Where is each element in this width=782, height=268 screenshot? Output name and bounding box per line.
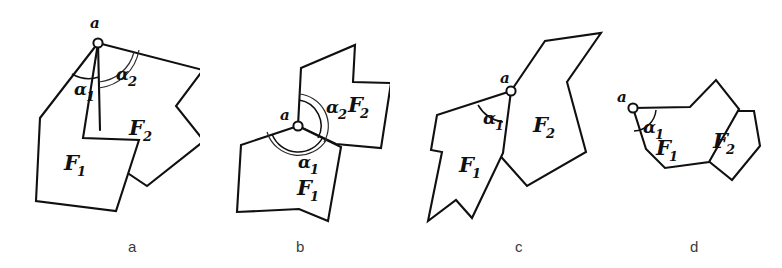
vertex-marker-c — [506, 86, 515, 95]
figure-panel-a: a α 1 α 2 F 1 F 2 — [0, 0, 200, 268]
region-subscript-f2-c: 2 — [545, 126, 555, 141]
region-subscript-f1-b: 1 — [310, 189, 319, 204]
figure-panel-c: a α 1 F 1 F 2 — [390, 0, 605, 268]
region-subscript-f1-c: 1 — [472, 166, 481, 181]
polygon-f2-c — [495, 33, 601, 186]
figure-plate: a α 1 α 2 F 1 F 2 a α — [0, 0, 782, 268]
region-subscript-f1-a: 1 — [77, 164, 86, 179]
panel-a-drawing: a α 1 α 2 F 1 F 2 — [0, 0, 200, 268]
region-subscript-f2-a: 2 — [142, 129, 152, 144]
caption-d: d — [690, 238, 698, 255]
vertex-label-a: a — [90, 14, 100, 32]
vertex-marker-a — [93, 38, 102, 47]
angle-subscript-alpha1-c: 1 — [495, 118, 504, 133]
panel-c-drawing: a α 1 F 1 F 2 — [390, 0, 605, 268]
region-subscript-f1-d: 1 — [669, 149, 678, 164]
vertex-label-c: a — [500, 69, 510, 87]
caption-a: a — [128, 238, 136, 255]
vertex-label-b: a — [280, 106, 290, 124]
region-subscript-f2-b: 2 — [359, 106, 369, 121]
angle-subscript-alpha1-a: 1 — [86, 89, 95, 104]
angle-subscript-alpha2-b: 2 — [337, 107, 347, 122]
figure-panel-d: a α 1 F 1 F 2 — [605, 0, 782, 268]
figure-panel-b: a α 1 α 2 F 1 F 2 — [200, 0, 390, 268]
region-subscript-f2-d: 2 — [725, 142, 735, 157]
vertex-label-d: a — [617, 88, 627, 106]
caption-b: b — [296, 238, 304, 255]
vertex-marker-b — [293, 121, 302, 130]
panel-b-drawing: a α 1 α 2 F 1 F 2 — [200, 0, 390, 268]
angle-subscript-alpha2-a: 2 — [127, 74, 137, 89]
vertex-marker-d — [628, 103, 637, 112]
panel-d-drawing: a α 1 F 1 F 2 — [605, 0, 782, 268]
caption-c: c — [515, 238, 523, 255]
